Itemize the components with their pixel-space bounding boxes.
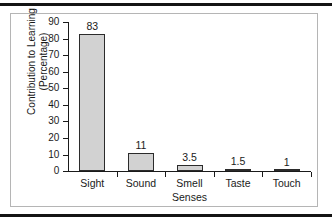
- x-category-label-sight: Sight: [68, 177, 117, 189]
- bar-taste: [225, 169, 251, 172]
- bar-value-sound: 11: [117, 140, 166, 151]
- y-tick-label: 10: [19, 150, 59, 160]
- bar-value-smell: 3.5: [165, 152, 214, 163]
- y-tick-label: 70: [19, 50, 59, 60]
- y-tick-label: 30: [19, 116, 59, 126]
- y-tick-label: 0: [19, 166, 59, 176]
- x-category-label-sound: Sound: [117, 177, 166, 189]
- x-tick-mark: [311, 172, 312, 177]
- y-axis-line: [68, 22, 69, 172]
- bar-value-taste: 1.5: [214, 156, 263, 167]
- figure-page: Contribution to Learning (Percentage) 90…: [0, 0, 332, 223]
- x-axis-title: Senses: [68, 191, 311, 203]
- x-category-label-smell: Smell: [165, 177, 214, 189]
- y-tick-label: 20: [19, 133, 59, 143]
- x-category-label-taste: Taste: [214, 177, 263, 189]
- y-tick-label: 90: [19, 17, 59, 27]
- y-tick-label: 40: [19, 100, 59, 110]
- bar-touch: [274, 169, 300, 171]
- y-tick-label: 50: [19, 83, 59, 93]
- bar-chart: Contribution to Learning (Percentage) 90…: [0, 0, 332, 223]
- bar-sight: [79, 34, 105, 171]
- y-tick-label: 60: [19, 67, 59, 77]
- bar-value-sight: 83: [68, 21, 117, 32]
- y-tick-label: 80: [19, 34, 59, 44]
- bar-smell: [177, 165, 203, 171]
- x-category-label-touch: Touch: [262, 177, 311, 189]
- bar-value-touch: 1: [262, 157, 311, 168]
- bar-sound: [128, 153, 154, 171]
